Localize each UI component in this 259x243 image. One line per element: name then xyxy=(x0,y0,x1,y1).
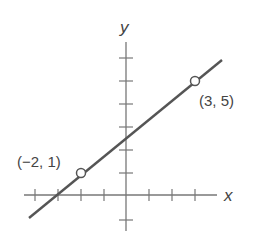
point-b-label: (3, 5) xyxy=(199,92,234,109)
point-a-label: (−2, 1) xyxy=(17,153,61,170)
coordinate-plane: x y (−2, 1) (3, 5) xyxy=(0,0,259,243)
point-b-marker xyxy=(191,77,200,86)
y-axis-label: y xyxy=(119,18,130,37)
x-axis-label: x xyxy=(223,186,233,205)
point-a-marker xyxy=(77,169,86,178)
